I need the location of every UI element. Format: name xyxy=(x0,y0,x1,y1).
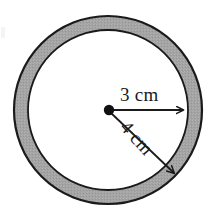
inner-radius-label: 3 cm xyxy=(120,85,159,104)
scan-artifact-mark xyxy=(1,27,5,38)
annulus-figure: 3 cm 4 cm xyxy=(0,0,223,213)
annulus-drawing xyxy=(0,0,223,213)
center-dot xyxy=(104,105,114,115)
